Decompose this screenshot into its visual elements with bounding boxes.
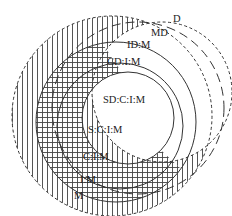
label-cdim: CD:I:M [107, 56, 141, 67]
label-d: D [173, 13, 181, 24]
nested-sets-diagram: D MD ID:M CD:I:M SD:C:I:M S:C:I:M C:I:M … [0, 0, 232, 216]
label-idm: ID:M [127, 39, 151, 50]
label-md: MD [151, 27, 168, 38]
label-scim: S:C:I:M [88, 124, 123, 135]
label-cim: C:I:M [83, 151, 109, 162]
diagram-canvas: D MD ID:M CD:I:M SD:C:I:M S:C:I:M C:I:M … [0, 0, 232, 216]
label-m: M [74, 190, 84, 201]
label-sdcim: SD:C:I:M [103, 94, 146, 105]
label-im: I:M [80, 174, 96, 185]
